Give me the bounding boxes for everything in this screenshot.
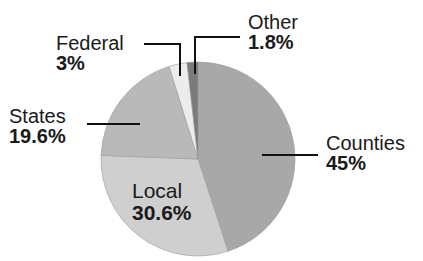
label-other-pct: 1.8%: [248, 32, 298, 52]
label-counties-name: Counties: [326, 133, 405, 153]
label-federal-pct: 3%: [56, 53, 124, 73]
label-other-name: Other: [248, 12, 298, 32]
label-counties: Counties 45%: [326, 133, 405, 173]
label-federal: Federal 3%: [56, 33, 124, 73]
label-counties-pct: 45%: [326, 153, 405, 173]
label-states: States 19.6%: [9, 106, 66, 146]
label-states-name: States: [9, 106, 66, 126]
label-local-pct: 30.6%: [132, 202, 192, 224]
label-states-pct: 19.6%: [9, 126, 66, 146]
label-other: Other 1.8%: [248, 12, 298, 52]
label-local: Local 30.6%: [132, 180, 192, 224]
label-federal-name: Federal: [56, 33, 124, 53]
label-local-name: Local: [132, 180, 192, 202]
pie-slices: [101, 62, 295, 256]
